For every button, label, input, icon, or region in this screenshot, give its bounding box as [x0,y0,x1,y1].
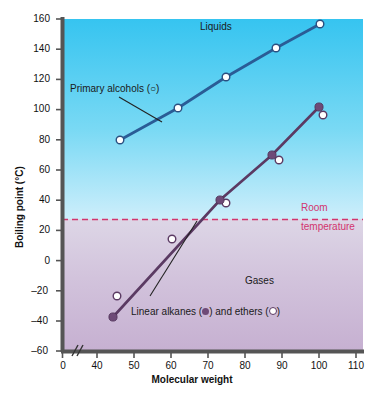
x-tick-label: 0 [48,360,78,371]
x-axis-title: Molecular weight [0,374,384,385]
x-tick-label: 70 [193,360,223,371]
annotation-text-part-c: ) [277,306,280,317]
y-tick-label: 160 [20,13,50,24]
x-tick-label: 50 [119,360,149,371]
annotation-text-part-b: ) and ethers ( [209,306,268,317]
y-tick-label: 100 [20,103,50,114]
y-axis-title-wrap: Boiling point (°C) [0,0,18,360]
room-temperature-label-line2: temperature [301,221,355,232]
y-axis-title: Boiling point (°C) [14,166,25,248]
linear-alkanes-ethers-annotation: Linear alkanes () and ethers () [131,306,280,317]
y-tick-label: –40 [18,315,48,326]
x-tick-label: 110 [341,360,371,371]
y-tick-label: 120 [20,73,50,84]
primary-alcohols-annotation: Primary alcohols (○) [70,83,159,94]
x-tick-label: 90 [267,360,297,371]
x-tick-label: 100 [304,360,334,371]
y-tick-label: 80 [20,134,50,145]
liquids-region-background [62,19,363,219]
boiling-point-chart [0,0,384,399]
y-tick-label: 140 [20,43,50,54]
x-tick-label: 80 [230,360,260,371]
room-temperature-label-line1: Room [301,202,328,213]
gases-region-background [62,219,363,351]
x-tick-label: 40 [82,360,112,371]
y-tick-label: 20 [20,224,50,235]
liquids-region-label: Liquids [200,21,232,32]
y-tick-label: –20 [18,285,48,296]
gases-region-label: Gases [245,275,274,286]
y-tick-label: 60 [20,164,50,175]
y-tick-label: 40 [20,194,50,205]
y-tick-label: 0 [20,255,50,266]
x-tick-label: 60 [156,360,186,371]
y-tick-label: –60 [18,345,48,356]
open-circle-icon [269,307,277,315]
annotation-text-part-a: Linear alkanes ( [131,306,202,317]
